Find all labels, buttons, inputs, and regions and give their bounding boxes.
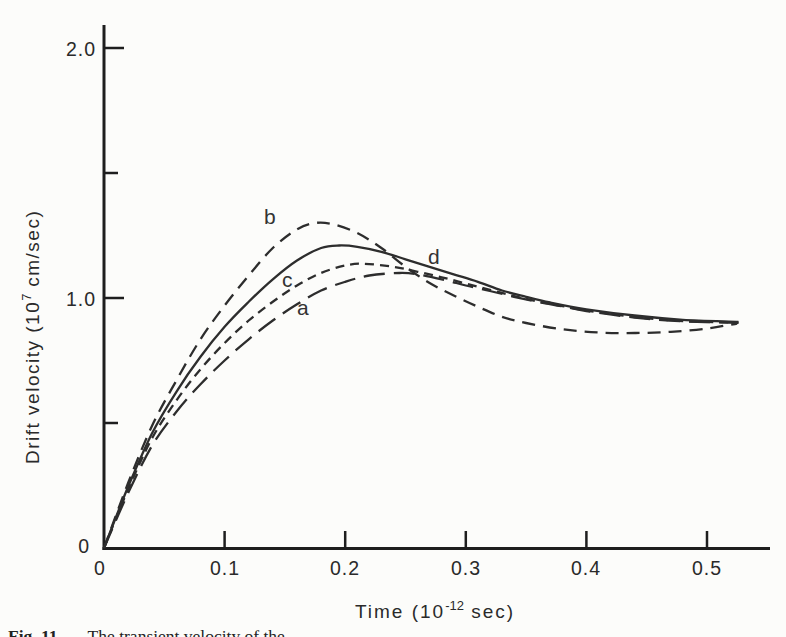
x-tick-label-0.1: 0.1: [202, 557, 248, 579]
x-axis-title-exponent: -12: [445, 598, 464, 613]
x-tick-label-0.5: 0.5: [684, 557, 730, 579]
y-tick-label-0: 0: [46, 535, 90, 557]
figure-caption-number: Fig. 11: [8, 626, 58, 637]
x-axis-title-text: Time (10: [355, 601, 445, 622]
x-tick-label-0.4: 0.4: [563, 557, 609, 579]
y-axis-title: Drift velocity (107 cm/sec): [20, 210, 44, 464]
x-axis-title: Time (10-12 sec): [320, 599, 550, 623]
y-axis-title-exponent: 7: [19, 294, 34, 301]
x-tick-label-0.2: 0.2: [322, 557, 368, 579]
x-tick-label-0: 0: [77, 557, 123, 579]
figure-caption: Fig. 11The transient velocity of the: [8, 626, 786, 637]
curve-label-a: a: [297, 297, 309, 319]
y-tick-label-1.0: 1.0: [52, 288, 96, 310]
curve-c: [104, 264, 738, 548]
curve-label-b: b: [264, 206, 276, 228]
plot-canvas: [0, 0, 786, 637]
curve-d: [104, 245, 738, 548]
x-axis-title-unit: sec): [464, 601, 515, 622]
y-axis-title-text: Drift velocity (10: [22, 301, 43, 464]
curve-label-c: c: [282, 269, 293, 291]
curve-label-d: d: [428, 246, 440, 268]
y-tick-label-2.0: 2.0: [52, 38, 96, 60]
figure-caption-text: The transient velocity of the: [88, 626, 285, 637]
y-axis-title-unit: cm/sec): [22, 210, 43, 294]
curve-a: [104, 273, 738, 548]
figure: 2.0 1.0 0 0 0.1 0.2 0.3 0.4 0.5 a b c d …: [0, 0, 786, 637]
x-tick-label-0.3: 0.3: [443, 557, 489, 579]
